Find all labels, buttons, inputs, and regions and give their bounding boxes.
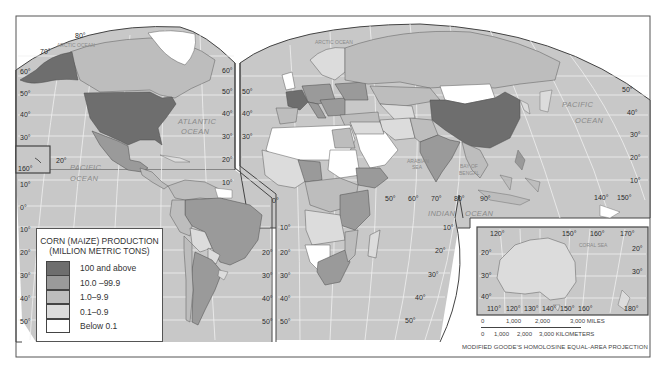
scale-km: 0 1,000 2,000 3,000 KILOMETERS bbox=[478, 331, 648, 340]
svg-text:130°: 130° bbox=[524, 305, 539, 312]
scale-miles: 0 1,000 2,000 3,000 MILES bbox=[478, 318, 648, 327]
svg-text:70°: 70° bbox=[40, 48, 51, 55]
svg-text:30°: 30° bbox=[262, 272, 273, 279]
hawaii-lat-label: 20° bbox=[56, 157, 67, 164]
atlantic-ocean-label-2: OCEAN bbox=[181, 127, 209, 136]
svg-text:30°: 30° bbox=[20, 134, 31, 141]
svg-text:40°: 40° bbox=[627, 109, 638, 116]
svg-text:50°: 50° bbox=[262, 318, 273, 325]
bay-of-bengal-label: BAY OF bbox=[460, 163, 478, 169]
svg-text:150°: 150° bbox=[562, 230, 577, 237]
coral-sea-label: CORAL SEA bbox=[579, 242, 608, 248]
iberia bbox=[276, 108, 298, 124]
svg-text:10°: 10° bbox=[20, 181, 31, 188]
svg-text:110°: 110° bbox=[487, 305, 501, 312]
lat-80-label: 80° bbox=[75, 32, 86, 39]
legend: CORN (MAIZE) PRODUCTION (MILLION METRIC … bbox=[36, 228, 163, 342]
arabian-sea-label-2: SEA bbox=[412, 164, 423, 170]
svg-text:140°: 140° bbox=[542, 305, 557, 312]
svg-text:10°: 10° bbox=[443, 224, 454, 231]
svg-text:50°: 50° bbox=[242, 88, 253, 95]
equator-africa-label: 0° bbox=[272, 197, 279, 204]
pacific-ocean-east-label: PACIFIC bbox=[562, 100, 593, 109]
svg-text:30°: 30° bbox=[632, 268, 643, 275]
svg-text:160°: 160° bbox=[578, 305, 593, 312]
svg-text:20°: 20° bbox=[262, 249, 273, 256]
legend-item: Below 0.1 bbox=[46, 319, 162, 334]
legend-swatch bbox=[46, 290, 70, 305]
svg-text:30°: 30° bbox=[242, 133, 253, 140]
svg-text:150°: 150° bbox=[617, 194, 632, 201]
svg-text:170°: 170° bbox=[620, 230, 635, 237]
bay-of-bengal-label-2: BENGAL bbox=[459, 170, 480, 176]
svg-text:40°: 40° bbox=[262, 295, 273, 302]
legend-swatch bbox=[46, 319, 70, 334]
legend-title: CORN (MAIZE) PRODUCTION (MILLION METRIC … bbox=[37, 236, 162, 256]
svg-text:60°: 60° bbox=[408, 195, 419, 202]
svg-text:40°: 40° bbox=[20, 111, 31, 118]
svg-text:10°: 10° bbox=[630, 177, 641, 184]
pacific-ocean-east-label-2: OCEAN bbox=[575, 116, 603, 125]
svg-text:120°: 120° bbox=[490, 230, 505, 237]
svg-text:20°: 20° bbox=[632, 245, 643, 252]
pacific-ocean-west-label-2: OCEAN bbox=[70, 174, 98, 183]
svg-text:50°: 50° bbox=[20, 318, 31, 325]
svg-text:40°: 40° bbox=[481, 293, 492, 300]
svg-text:20°: 20° bbox=[481, 249, 492, 256]
svg-text:20°: 20° bbox=[630, 154, 641, 161]
svg-text:30°: 30° bbox=[20, 272, 31, 279]
svg-text:30°: 30° bbox=[222, 133, 233, 140]
svg-text:40°: 40° bbox=[20, 295, 31, 302]
guianas bbox=[215, 188, 232, 198]
legend-items: 100 and above 10.0 –99.9 1.0–9.9 0.1–0.9… bbox=[46, 261, 162, 334]
legend-swatch bbox=[46, 261, 70, 276]
svg-text:40°: 40° bbox=[242, 110, 253, 117]
svg-text:60°: 60° bbox=[20, 68, 31, 75]
svg-text:30°: 30° bbox=[428, 271, 439, 278]
svg-text:80°: 80° bbox=[454, 195, 465, 202]
svg-text:40°: 40° bbox=[280, 295, 291, 302]
legend-item: 100 and above bbox=[46, 261, 162, 276]
svg-text:20°: 20° bbox=[222, 156, 233, 163]
svg-text:20°: 20° bbox=[20, 249, 31, 256]
svg-text:120°: 120° bbox=[506, 305, 521, 312]
iraq-syria bbox=[350, 122, 384, 134]
svg-text:160°: 160° bbox=[590, 230, 605, 237]
svg-text:180°: 180° bbox=[624, 305, 639, 312]
legend-swatch bbox=[46, 275, 70, 290]
svg-text:30°: 30° bbox=[481, 272, 492, 279]
svg-text:70°: 70° bbox=[431, 195, 442, 202]
svg-text:30°: 30° bbox=[630, 131, 641, 138]
svg-text:50°: 50° bbox=[405, 317, 416, 324]
svg-text:10°: 10° bbox=[280, 224, 291, 231]
indian-ocean-label-2: OCEAN bbox=[465, 209, 493, 218]
svg-text:50°: 50° bbox=[222, 88, 233, 95]
svg-text:60°: 60° bbox=[222, 67, 233, 74]
svg-text:10°: 10° bbox=[222, 179, 233, 186]
svg-text:50°: 50° bbox=[622, 86, 633, 93]
arctic-ocean-label-left: ARCTIC OCEAN bbox=[57, 42, 95, 48]
svg-text:40°: 40° bbox=[415, 294, 426, 301]
legend-item: 1.0–9.9 bbox=[46, 290, 162, 305]
indian-ocean-label: INDIAN bbox=[428, 209, 456, 218]
svg-text:20°: 20° bbox=[435, 247, 446, 254]
svg-text:50°: 50° bbox=[385, 195, 396, 202]
svg-text:90°: 90° bbox=[480, 195, 491, 202]
svg-text:20°: 20° bbox=[280, 249, 291, 256]
svg-text:10°: 10° bbox=[20, 226, 31, 233]
legend-item: 0.1–0.9 bbox=[46, 305, 162, 320]
svg-text:50°: 50° bbox=[280, 318, 291, 325]
projection-note: MODIFIED GOODE'S HOMOLOSINE EQUAL-AREA P… bbox=[462, 344, 648, 350]
svg-text:40°: 40° bbox=[222, 110, 233, 117]
svg-text:0°: 0° bbox=[20, 204, 27, 211]
svg-text:50°: 50° bbox=[20, 90, 31, 97]
legend-swatch bbox=[46, 304, 70, 319]
angola-zambia bbox=[305, 210, 345, 245]
svg-text:30°: 30° bbox=[280, 272, 291, 279]
hawaii-lon-label: 160° bbox=[18, 165, 33, 172]
svg-text:140°: 140° bbox=[594, 194, 609, 201]
arctic-ocean-label-right: ARCTIC OCEAN bbox=[315, 39, 353, 45]
scale-line bbox=[481, 327, 581, 328]
atlantic-ocean-label: ATLANTIC bbox=[177, 117, 216, 126]
legend-item: 10.0 –99.9 bbox=[46, 276, 162, 291]
